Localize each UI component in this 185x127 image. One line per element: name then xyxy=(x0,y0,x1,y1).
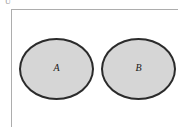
set-label-a: A xyxy=(53,63,59,73)
venn-diagram-figure: U A B xyxy=(0,0,185,127)
set-ellipse-b: B xyxy=(101,38,176,100)
set-label-b: B xyxy=(135,63,141,73)
cropped-corner-glyph: U xyxy=(2,0,14,6)
set-ellipse-a: A xyxy=(19,38,94,100)
